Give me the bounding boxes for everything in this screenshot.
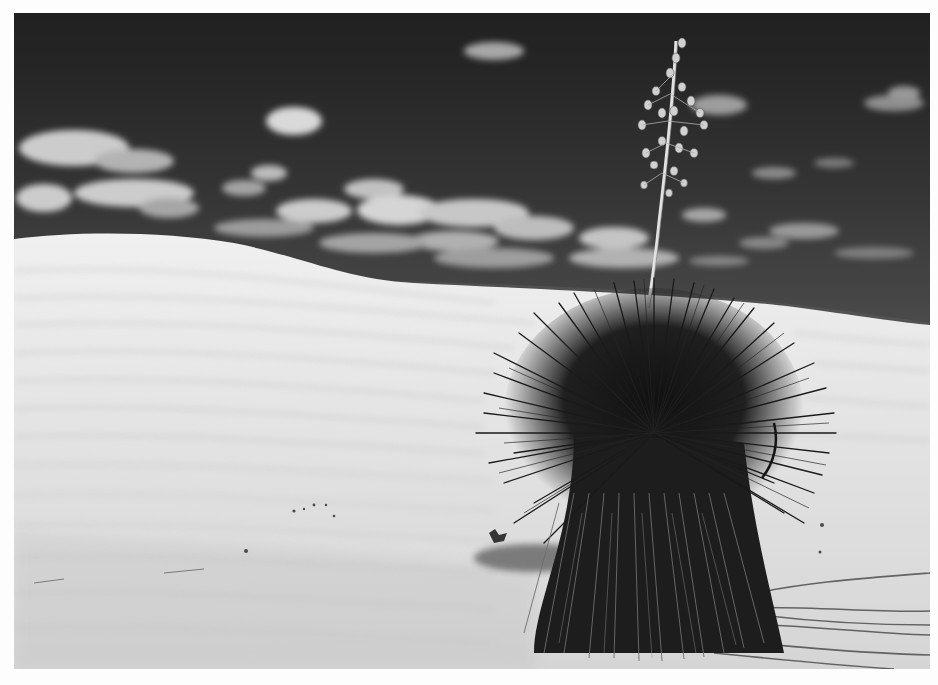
photo-frame: Black and white photograph of a soaptree… — [0, 0, 938, 685]
film-grain — [14, 13, 930, 669]
photograph: Black and white photograph of a soaptree… — [14, 13, 930, 669]
